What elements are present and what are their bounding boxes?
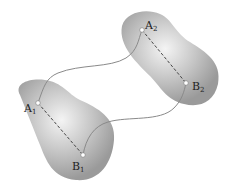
point-b1 [81, 153, 86, 158]
point-b2 [184, 81, 189, 86]
point-a1 [36, 101, 41, 106]
point-a2 [140, 28, 145, 33]
rigid-body-1 [19, 80, 115, 181]
rigid-body-motion-diagram: A1 B1 A2 B2 [0, 0, 231, 187]
